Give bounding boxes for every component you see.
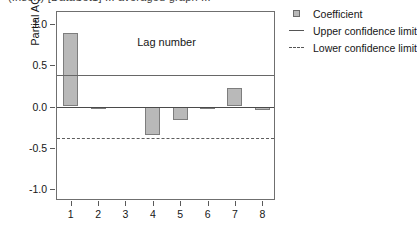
coefficient-swatch-icon	[285, 10, 307, 17]
zero-line	[57, 107, 274, 108]
upper-confidence-limit-line	[57, 75, 274, 76]
y-axis-tick	[50, 148, 55, 149]
x-axis-tick-label: 4	[150, 208, 156, 220]
x-axis-tick	[235, 201, 236, 206]
acf-bar	[173, 107, 188, 121]
lower-confidence-limit-line	[57, 138, 274, 139]
x-axis-label: Lag number	[57, 36, 276, 48]
x-axis-tick	[153, 201, 154, 206]
x-axis-tick	[98, 201, 99, 206]
y-axis-tick	[50, 189, 55, 190]
y-axis-tick-label: 0.5	[32, 59, 47, 71]
x-axis-tick-label: 5	[177, 208, 183, 220]
legend-item-coefficient: Coefficient	[285, 6, 417, 21]
x-axis-tick-label: 3	[123, 208, 129, 220]
x-axis-tick	[71, 201, 72, 206]
legend-label: Upper confidence limit	[313, 25, 417, 37]
acf-bar	[227, 88, 242, 106]
x-axis-tick-label: 2	[95, 208, 101, 220]
legend-label: Coefficient	[313, 8, 362, 20]
legend-item-lower-limit: Lower confidence limit	[285, 40, 417, 55]
x-axis-tick-label: 7	[232, 208, 238, 220]
y-axis-tick	[50, 107, 55, 108]
x-axis-tick-label: 1	[68, 208, 74, 220]
legend-label: Lower confidence limit	[313, 42, 417, 54]
x-axis-tick	[125, 201, 126, 206]
plot-area: Partial ACF 1.00.50.0-0.5-1.0 12345678 L…	[56, 11, 275, 200]
y-axis-tick-label: -0.5	[29, 142, 47, 154]
y-axis-tick	[50, 65, 55, 66]
dashed-line-icon	[285, 47, 307, 48]
legend-item-upper-limit: Upper confidence limit	[285, 23, 417, 38]
acf-bar	[145, 107, 160, 136]
y-axis-tick-label: 1.0	[32, 18, 47, 30]
y-axis-tick-label: 0.0	[32, 101, 47, 113]
y-axis-tick-label: -1.0	[29, 183, 47, 195]
x-axis-tick-label: 6	[205, 208, 211, 220]
x-axis-tick-label: 8	[259, 208, 265, 220]
legend: Coefficient Upper confidence limit Lower…	[285, 6, 417, 57]
y-axis-tick	[50, 24, 55, 25]
x-axis-tick	[262, 201, 263, 206]
x-axis-tick	[208, 201, 209, 206]
solid-line-icon	[285, 30, 307, 31]
x-axis-tick	[180, 201, 181, 206]
